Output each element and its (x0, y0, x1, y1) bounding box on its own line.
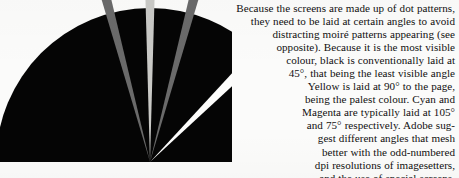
body-text-line: they need to be laid at certain angles t… (227, 15, 455, 28)
body-text-line: dpi resolutions of imagesetters, (227, 159, 455, 172)
body-text-line: 45°, that being the least visible angle (227, 67, 455, 80)
screen-angle-diagram (0, 0, 232, 178)
body-text-line: and 75° respectively. Adobe sug- (227, 119, 455, 132)
body-text-line: Magenta are typically laid at 105° (227, 106, 455, 119)
body-text-line: gest different angles that mesh (227, 132, 455, 145)
body-text-block: Because the screens are made up of dot p… (227, 2, 455, 178)
body-text-line: opposite). Because it is the most visibl… (227, 41, 455, 54)
body-text-line-clipped: and the use of special screens. (227, 172, 455, 178)
body-text-line: colour, black is conventionally laid at (227, 54, 455, 67)
screen-angle-fan-svg (0, 0, 232, 178)
body-text-line: better with the odd-numbered (227, 146, 455, 159)
body-text-line: distracting moiré patterns appearing (se… (227, 28, 455, 41)
body-text-line: Yellow is laid at 90° to the page, (227, 80, 455, 93)
book-page-scan: Because the screens are made up of dot p… (0, 0, 459, 178)
body-text-line: Because the screens are made up of dot p… (227, 2, 455, 15)
body-text-line: being the palest colour. Cyan and (227, 93, 455, 106)
